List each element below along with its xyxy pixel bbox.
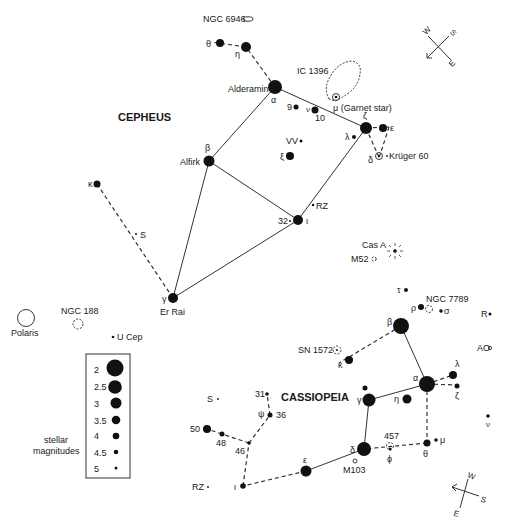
star-alpha-cas: [419, 376, 435, 392]
label-31-cas: 31: [255, 389, 265, 399]
star-rz-cas: [207, 486, 209, 488]
label-xi-cep: ξ: [280, 152, 284, 162]
label-iota-cas: ι: [234, 482, 236, 492]
label-sn1572: SN 1572: [298, 345, 333, 355]
legend-mag-3-5: 3.5: [94, 416, 107, 426]
cepheus-title: CEPHEUS: [118, 111, 171, 123]
label-alpha-cep: α: [271, 95, 276, 105]
label-alderamin: Alderamin: [228, 84, 269, 94]
compass-top: [427, 36, 451, 60]
star-iota-cas: [240, 483, 246, 489]
label-50-cas: 50: [190, 424, 200, 434]
ngc188-cluster-icon: [73, 319, 83, 329]
label-zeta-cas: ζ: [455, 391, 459, 401]
compass-top-w: W: [421, 25, 433, 37]
star-theta-cas: [424, 440, 431, 447]
label-cas-a: Cas A: [362, 240, 386, 250]
star-kappa-cep: [94, 181, 101, 188]
label-mu-cas: μ: [440, 435, 445, 445]
compass-bottom-s: S: [479, 495, 487, 505]
label-kruger60: Krüger 60: [389, 151, 429, 161]
label-gamma-cas: γ: [357, 395, 362, 405]
cepheus-labels: CEPHEUS NGC 6946 θ η Alderamin α IC 1396…: [88, 14, 429, 317]
label-rho-cas: ρ: [411, 303, 416, 313]
star-xi-cep: [286, 152, 294, 160]
label-epsilon-cep: ε: [390, 123, 394, 133]
label-10-cep: 10: [315, 113, 325, 123]
star-alderamin: [268, 80, 282, 94]
misc-objects: Polaris NGC 188 U Cep Cas A M52: [11, 240, 403, 342]
star-delta-cas: [357, 442, 371, 456]
label-vv-cep: VV: [286, 136, 298, 146]
legend-title-line2: magnitudes: [33, 446, 80, 456]
label-polaris: Polaris: [11, 328, 39, 338]
label-delta-cas: δ: [350, 445, 355, 455]
star-sigma-cas: [439, 309, 443, 313]
star-32-cep: [289, 220, 291, 222]
star-u-cep: [112, 336, 115, 339]
label-ngc457: 457: [384, 431, 399, 441]
star-vv-cep: [300, 140, 303, 143]
label-phi-cas: ϕ: [387, 454, 392, 464]
label-theta-cas: θ: [423, 449, 428, 459]
label-iota-cep: ι: [306, 216, 308, 226]
star-gamma-cas: [363, 394, 376, 407]
compass-top-s: S: [448, 28, 458, 38]
label-beta-cas: β: [387, 317, 392, 327]
label-s-cas: S: [207, 394, 213, 404]
label-lambda-cas: λ: [455, 359, 460, 369]
legend-mag-4: 4: [94, 431, 99, 441]
legend-mag-4-5: 4.5: [94, 448, 107, 458]
label-rz-cas: RZ: [192, 482, 204, 492]
label-ngc6946: NGC 6946: [203, 14, 246, 24]
star-mu-cas: [434, 438, 438, 442]
label-eta-cas: η: [394, 394, 399, 404]
compass-bottom-e: E: [452, 509, 460, 519]
label-delta-cep: δ: [368, 155, 373, 165]
star-zeta-cas: [455, 384, 460, 389]
label-kappa-cep: κ: [88, 179, 93, 189]
label-m103: M103: [343, 465, 366, 475]
label-48-cas: 48: [216, 438, 226, 448]
label-u-cep: U Cep: [117, 332, 143, 342]
star-lambda-cep: [352, 135, 356, 139]
legend-title-line1: stellar: [44, 435, 68, 445]
label-36-cas: 36: [276, 410, 286, 420]
star-theta-cep: [216, 39, 224, 47]
star-31-cas: [265, 392, 269, 396]
star-gamma-companion: [363, 386, 368, 391]
star-rho-cas: [418, 304, 424, 310]
star-alfirk: [204, 156, 215, 167]
label-theta-cep: θ: [206, 39, 211, 49]
label-eta-cep: η: [235, 49, 240, 59]
star-s-cas: [217, 398, 219, 400]
star-er-rai: [168, 293, 178, 303]
legend-mag-2-5: 2.5: [94, 382, 107, 392]
star-beta-cas: [393, 318, 409, 334]
label-lambda-cep: λ: [345, 132, 350, 142]
cassiopeia-title: CASSIOPEIA: [281, 391, 349, 403]
label-46-cas: 46: [235, 446, 245, 456]
label-tau-cas: τ: [397, 285, 401, 295]
star-rz-cep: [312, 204, 314, 206]
m52-cluster-icon: [372, 257, 376, 261]
cepheus-lines: [97, 42, 389, 298]
label-rz-cep: RZ: [316, 201, 328, 211]
legend-mag-3: 3: [94, 399, 99, 409]
label-r-cas: R: [481, 309, 488, 319]
label-ic1396: IC 1396: [297, 66, 329, 76]
star-50-cas: [203, 425, 211, 433]
star-kappa-cas: [345, 356, 353, 364]
legend-mag-2: 2: [94, 365, 99, 375]
star-phi-cas: [389, 448, 392, 451]
label-ngc188: NGC 188: [61, 306, 99, 316]
star-eta-cep: [241, 42, 251, 52]
label-gamma-cep: γ: [162, 294, 167, 304]
star-9-cep: [294, 105, 299, 110]
m103-cluster-icon: [353, 459, 357, 463]
star-tau-cas: [404, 288, 408, 292]
label-s-cep: S: [140, 230, 146, 240]
label-er-rai: Er Rai: [160, 307, 185, 317]
label-32-cep: 32: [278, 216, 288, 226]
label-zeta-cep: ζ: [363, 111, 367, 121]
